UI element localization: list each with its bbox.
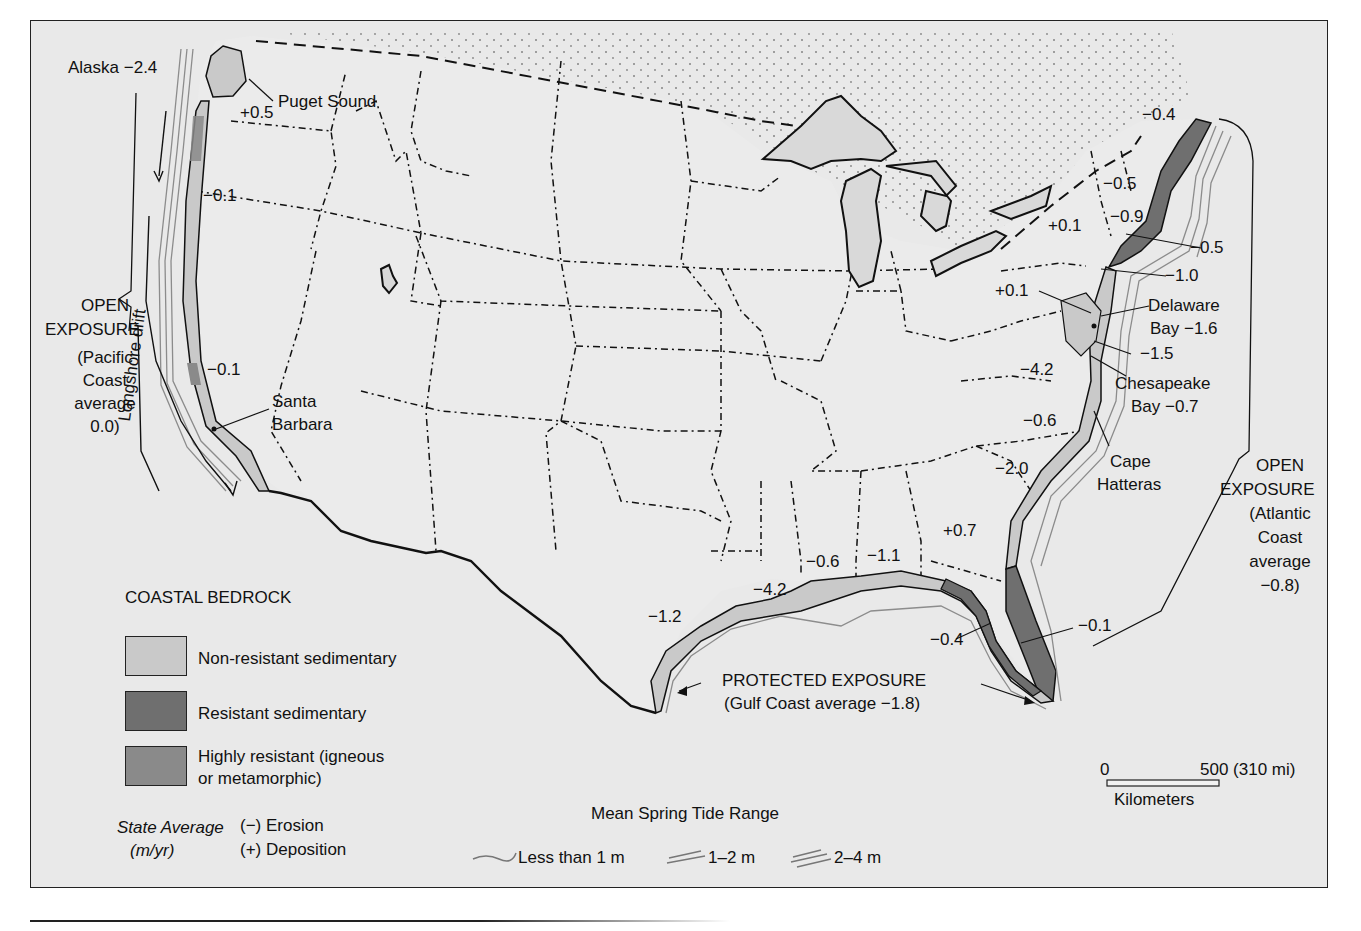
label-atlantic-avg-2: Coast: [1225, 528, 1335, 548]
label-pacific-open: OPEN: [40, 296, 170, 316]
tide-legend-1-2m: 1–2 m: [708, 848, 755, 868]
legend-state-average: State Average: [117, 818, 224, 838]
label-atlantic-open: OPEN: [1225, 456, 1335, 476]
label-new-hampshire: −0.5: [1103, 174, 1137, 194]
scale-bar: [1107, 780, 1219, 786]
label-pacific-avg-4: 0.0): [40, 417, 170, 437]
legend-deposition: (+) Deposition: [240, 840, 346, 860]
label-texas: −1.2: [648, 607, 682, 627]
label-massachusetts: −0.9: [1110, 207, 1144, 227]
label-pennsylvania: +0.1: [1048, 216, 1082, 236]
legend-label-non-resistant: Non-resistant sedimentary: [198, 648, 396, 669]
label-alaska: Alaska −2.4: [68, 58, 157, 78]
tide-line-less-1m: [473, 853, 516, 861]
swatch-non-resistant: [125, 636, 187, 676]
scale-zero: 0: [1100, 760, 1109, 780]
label-new-jersey: +0.1: [995, 281, 1029, 301]
label-pacific-avg-2: Coast: [40, 371, 170, 391]
label-delaware-2: Bay −1.6: [1150, 319, 1218, 339]
label-louisiana: −4.2: [753, 580, 787, 600]
label-atlantic-exposure: EXPOSURE: [1220, 480, 1314, 500]
label-mississippi: −0.6: [806, 552, 840, 572]
label-gulf-average: (Gulf Coast average −1.8): [724, 694, 920, 714]
label-rhode-island: −0.5: [1190, 238, 1224, 258]
scale-max: 500 (310 mi): [1200, 760, 1295, 780]
label-washington: +0.5: [240, 103, 274, 123]
page-rule: [30, 920, 1030, 922]
tide-legend-less-1m: Less than 1 m: [518, 848, 625, 868]
swatch-resistant: [125, 691, 187, 731]
santa-barbara-marker: [212, 427, 217, 432]
label-maine: −0.4: [1142, 105, 1176, 125]
label-pacific-exposure: EXPOSURE: [45, 320, 139, 340]
label-atlantic-avg-4: −0.8): [1225, 576, 1335, 596]
label-oregon: −0.1: [203, 186, 237, 206]
label-maryland: −1.5: [1140, 344, 1174, 364]
tide-legend-title: Mean Spring Tide Range: [591, 804, 779, 824]
delaware-marker: [1092, 324, 1097, 329]
label-santa-barbara-2: Barbara: [272, 415, 332, 435]
label-pacific-avg-3: average: [40, 394, 170, 414]
label-cape-hatteras-1: Cape: [1110, 452, 1151, 472]
label-south-carolina: −2.0: [995, 459, 1029, 479]
legend-erosion: (−) Erosion: [240, 816, 324, 836]
label-florida-west: −0.4: [930, 630, 964, 650]
label-california: −0.1: [207, 360, 241, 380]
tide-line-2-4m: [791, 850, 831, 867]
scale-unit: Kilometers: [1114, 790, 1194, 810]
legend-title: COASTAL BEDROCK: [125, 588, 291, 608]
label-puget-sound: Puget Sound: [278, 92, 376, 112]
tide-line-1-2m: [667, 851, 705, 863]
label-pacific-avg-1: (Pacific: [40, 348, 170, 368]
legend-label-resistant: Resistant sedimentary: [198, 703, 366, 724]
label-alabama: −1.1: [867, 546, 901, 566]
label-atlantic-avg-3: average: [1225, 552, 1335, 572]
label-santa-barbara-1: Santa: [272, 392, 316, 412]
label-georgia: +0.7: [943, 521, 977, 541]
label-delaware-1: Delaware: [1148, 296, 1220, 316]
legend-label-highly-resistant-2: or metamorphic): [198, 768, 322, 789]
label-north-carolina: −0.6: [1023, 411, 1057, 431]
label-cape-hatteras-2: Hatteras: [1097, 475, 1161, 495]
label-florida-east: −0.1: [1078, 616, 1112, 636]
legend-state-average-unit: (m/yr): [130, 841, 174, 861]
label-ny-ct: −1.0: [1165, 266, 1199, 286]
label-atlantic-avg-1: (Atlantic: [1225, 504, 1335, 524]
legend-label-highly-resistant-1: Highly resistant (igneous: [198, 746, 384, 767]
label-virginia: −4.2: [1020, 360, 1054, 380]
tide-legend-2-4m: 2–4 m: [834, 848, 881, 868]
swatch-highly-resistant: [125, 746, 187, 786]
label-chesapeake-1: Chesapeake: [1115, 374, 1210, 394]
label-chesapeake-2: Bay −0.7: [1131, 397, 1199, 417]
label-gulf-protected: PROTECTED EXPOSURE: [722, 671, 926, 691]
